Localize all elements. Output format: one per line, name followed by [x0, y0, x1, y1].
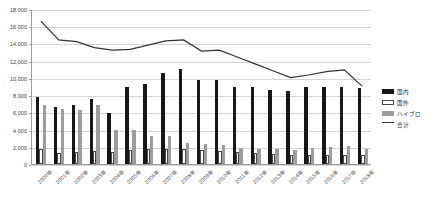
x-axis-tick-label: 2010年: [215, 168, 233, 186]
y-axis-tick-label: 6,000: [13, 110, 27, 116]
legend-label: ハイブロ: [397, 110, 421, 118]
x-axis-tick-label: 2015年: [304, 168, 322, 186]
chart-container: 02,0004,0006,0008,00010,00012,00014,0001…: [0, 0, 438, 208]
chart-legend: 国内国外ハイブロ合計: [382, 86, 438, 130]
total-line: [41, 21, 362, 86]
x-axis-tick-label: 2017年: [340, 168, 358, 186]
plot-area: [31, 10, 371, 165]
y-axis-tick-label: 0: [24, 162, 27, 168]
x-axis-tick-label: 2014年: [286, 168, 304, 186]
x-axis-tick-label: 2003年: [89, 168, 107, 186]
x-axis-tick-label: 2001年: [54, 168, 72, 186]
x-axis-tick-label: 2006年: [143, 168, 161, 186]
legend-item[interactable]: 国内: [382, 86, 438, 97]
x-axis: 2000年2001年2002年2003年2004年2005年2006年2007年…: [31, 166, 371, 208]
legend-swatch-overseas: [382, 100, 394, 105]
y-axis-tick-label: 16,000: [10, 24, 27, 30]
legend-label: 国内: [397, 88, 409, 96]
total-line-layer: [32, 10, 371, 164]
x-axis-tick-label: 2007年: [161, 168, 179, 186]
x-axis-tick-label: 2016年: [322, 168, 340, 186]
x-axis-tick-label: 2009年: [197, 168, 215, 186]
y-axis-tick-label: 4,000: [13, 128, 27, 134]
legend-item[interactable]: 合計: [382, 119, 438, 130]
y-axis-tick-label: 8,000: [13, 93, 27, 99]
legend-item[interactable]: ハイブロ: [382, 108, 438, 119]
x-axis-tick-label: 2018年: [358, 168, 376, 186]
y-axis-tick-label: 18,000: [10, 7, 27, 13]
legend-swatch-total: [382, 122, 394, 127]
legend-swatch-hybrid: [382, 111, 394, 116]
legend-swatch-domestic: [382, 89, 394, 94]
x-axis-tick-label: 2005年: [125, 168, 143, 186]
x-axis-tick-label: 2012年: [251, 168, 269, 186]
legend-label: 合計: [397, 121, 409, 129]
y-axis-tick-label: 12,000: [10, 59, 27, 65]
x-axis-tick-label: 2008年: [179, 168, 197, 186]
x-axis-tick-label: 2002年: [72, 168, 90, 186]
y-axis-tick-label: 2,000: [13, 145, 27, 151]
legend-label: 国外: [397, 99, 409, 107]
y-axis-tick-label: 10,000: [10, 76, 27, 82]
legend-item[interactable]: 国外: [382, 97, 438, 108]
y-axis: 02,0004,0006,0008,00010,00012,00014,0001…: [0, 0, 31, 165]
x-axis-tick-label: 2011年: [233, 168, 251, 186]
y-axis-tick-label: 14,000: [10, 41, 27, 47]
x-axis-tick-label: 2013年: [268, 168, 286, 186]
x-axis-tick-label: 2004年: [107, 168, 125, 186]
x-axis-tick-label: 2000年: [36, 168, 54, 186]
